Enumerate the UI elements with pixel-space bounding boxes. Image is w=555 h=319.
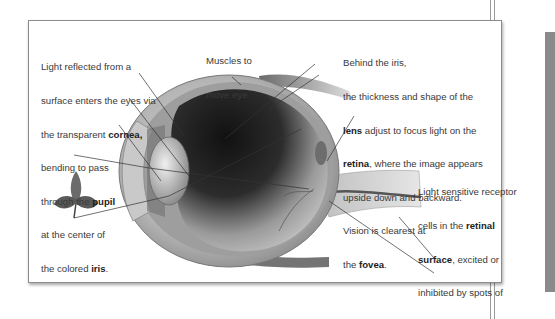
term-retinal: retinal <box>466 220 495 231</box>
term-surface: surface <box>418 254 452 265</box>
text-line: bending to pass <box>41 162 156 173</box>
text-line: lens adjust to focus light on the <box>343 125 483 136</box>
text-line: at the center of <box>41 229 156 240</box>
text-line: Light reflected from a <box>41 61 156 72</box>
term-lens: lens <box>343 125 362 136</box>
eye-diagram-panel: Light reflected from a surface enters th… <box>28 20 502 283</box>
term-retina: retina <box>343 158 369 169</box>
page-gutter-rule <box>494 0 495 20</box>
text-line: move eye <box>206 89 252 100</box>
fovea <box>315 141 327 165</box>
text-line: the colored iris. <box>41 263 156 274</box>
text-line: surface, excited or <box>418 254 517 265</box>
term-cornea: cornea <box>108 129 139 140</box>
text-line: Muscles to <box>206 55 252 66</box>
term-iris: iris <box>91 263 105 274</box>
text-line: the transparent cornea, <box>41 129 156 140</box>
text-line: the thickness and shape of the <box>343 91 483 102</box>
text-line: surface enters the eyes via <box>41 95 156 106</box>
text-line: cells in the retinal <box>418 220 517 231</box>
term-fovea: fovea <box>359 259 384 270</box>
label-muscles: Muscles to move eye <box>206 33 252 123</box>
label-cornea-pupil-iris: Light reflected from a surface enters th… <box>41 39 156 297</box>
text-line: inhibited by spots of <box>418 287 517 298</box>
text-line: through the pupil <box>41 196 156 207</box>
text-line: Behind the iris, <box>343 57 483 68</box>
text-line: Light sensitive receptor <box>418 186 517 197</box>
label-retina-optic-nerve: Light sensitive receptor cells in the re… <box>418 164 517 319</box>
term-pupil: pupil <box>92 196 115 207</box>
page-gutter-rule <box>490 0 491 20</box>
side-tab-bar <box>545 32 555 292</box>
